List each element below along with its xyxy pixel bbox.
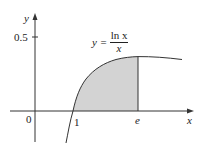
y-axis-label: y (24, 13, 29, 24)
x-axis-arrow-icon (187, 109, 194, 114)
equation-lhs: y = (92, 36, 107, 48)
function-annotation: y = ln x x (92, 30, 128, 54)
origin-label: 0 (26, 114, 32, 125)
x-axis-label: x (187, 115, 192, 126)
plot-area (0, 0, 208, 152)
y-tick-label-0.5: 0.5 (14, 32, 28, 43)
y-axis-arrow-icon (33, 13, 38, 20)
x-tick-label-e: e (135, 115, 140, 126)
x-tick-label-1: 1 (74, 117, 80, 128)
equation-numerator: ln x (111, 30, 128, 42)
equation-denominator: x (117, 43, 122, 55)
